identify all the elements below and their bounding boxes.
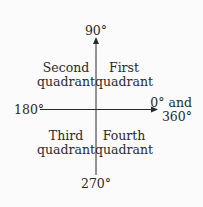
fourth-quadrant-label-line2: quadrant — [95, 143, 153, 156]
third-quadrant-label-line1: Third — [49, 129, 83, 142]
label-360-degrees: 360° — [162, 110, 192, 123]
quadrant-diagram: 90° Second quadrant First quadrant 180° … — [0, 0, 203, 207]
label-180-degrees: 180° — [14, 103, 44, 116]
fourth-quadrant-label-line1: Fourth — [103, 129, 146, 142]
first-quadrant-label-line2: quadrant — [95, 75, 153, 88]
arrowhead-up-icon — [93, 37, 99, 44]
label-270-degrees: 270° — [81, 177, 111, 190]
label-0-degrees: 0° and — [150, 96, 192, 109]
second-quadrant-label-line2: quadrant — [37, 75, 95, 88]
third-quadrant-label-line2: quadrant — [37, 143, 95, 156]
second-quadrant-label-line1: Second — [43, 61, 90, 74]
first-quadrant-label-line1: First — [109, 61, 139, 74]
horizontal-axis — [40, 107, 158, 113]
label-90-degrees: 90° — [85, 24, 107, 37]
